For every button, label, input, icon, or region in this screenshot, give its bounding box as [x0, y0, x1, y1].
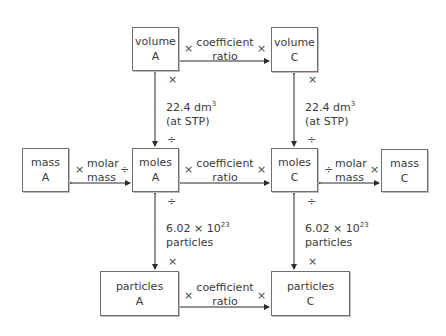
volume-c-substance: C [291, 50, 299, 65]
divide-icon: ÷ [324, 164, 333, 176]
avogadro-left-label: 6.02 × 1023 particles [166, 222, 230, 250]
volume-exponent: 3 [351, 100, 355, 108]
stp-text: (at STP) [166, 115, 216, 129]
moles-a-label: moles [139, 155, 172, 170]
molar-text: molar [87, 157, 119, 171]
multiply-icon: × [168, 256, 177, 268]
multiply-icon: × [75, 164, 84, 176]
coefficient-text: coefficient [194, 36, 256, 50]
mass-text: mass [335, 171, 367, 185]
moles-a-substance: A [152, 170, 160, 185]
divide-icon: ÷ [307, 196, 316, 208]
coefficient-ratio-top-label: coefficient ratio [194, 36, 256, 64]
molar-text: molar [335, 157, 367, 171]
gas-volume-right-label: 22.4 dm3 (at STP) [305, 101, 355, 129]
multiply-icon: × [168, 74, 177, 86]
mole-conversion-diagram: volume A volume C mass A moles A moles C… [0, 0, 446, 336]
particles-c-label: particles [287, 279, 334, 294]
avogadro-value: 6.02 × 10 [305, 222, 360, 235]
molar-mass-right-label: molar mass [335, 157, 367, 185]
multiply-icon: × [184, 164, 193, 176]
moles-c-label: moles [278, 155, 311, 170]
particles-a-label: particles [116, 279, 163, 294]
particles-c-box: particles C [271, 271, 350, 316]
volume-c-label: volume [274, 35, 315, 50]
avogadro-exponent: 23 [360, 221, 369, 229]
avogadro-value: 6.02 × 10 [166, 222, 221, 235]
multiply-icon: × [308, 74, 317, 86]
volume-a-substance: A [152, 49, 160, 64]
stp-text: (at STP) [305, 115, 355, 129]
volume-c-box: volume C [271, 27, 318, 72]
multiply-icon: × [370, 164, 379, 176]
multiply-icon: × [184, 43, 193, 55]
volume-value: 22.4 dm [305, 101, 351, 114]
volume-exponent: 3 [212, 100, 216, 108]
mass-c-label: mass [390, 156, 419, 171]
mass-c-box: mass C [381, 149, 428, 192]
mass-a-substance: A [42, 170, 50, 185]
ratio-text: ratio [194, 50, 256, 64]
particles-c-substance: C [307, 294, 315, 309]
molar-mass-left-label: molar mass [87, 157, 119, 185]
mass-a-box: mass A [22, 148, 69, 192]
divide-icon: ÷ [167, 196, 176, 208]
moles-c-substance: C [291, 170, 299, 185]
multiply-icon: × [308, 256, 317, 268]
multiply-icon: × [257, 290, 266, 302]
coefficient-ratio-mid-label: coefficient ratio [194, 157, 256, 185]
coefficient-text: coefficient [194, 281, 256, 295]
divide-icon: ÷ [307, 134, 316, 146]
particles-text: particles [305, 236, 369, 250]
volume-a-box: volume A [132, 27, 179, 71]
particles-text: particles [166, 236, 230, 250]
divide-icon: ÷ [120, 164, 129, 176]
volume-value: 22.4 dm [166, 101, 212, 114]
volume-a-label: volume [135, 34, 176, 49]
avogadro-right-label: 6.02 × 1023 particles [305, 222, 369, 250]
moles-c-box: moles C [271, 148, 318, 192]
gas-volume-left-label: 22.4 dm3 (at STP) [166, 101, 216, 129]
ratio-text: ratio [194, 295, 256, 309]
multiply-icon: × [257, 164, 266, 176]
moles-a-box: moles A [132, 148, 179, 192]
mass-c-substance: C [401, 171, 409, 186]
divide-icon: ÷ [167, 134, 176, 146]
multiply-icon: × [257, 43, 266, 55]
multiply-icon: × [184, 290, 193, 302]
ratio-text: ratio [194, 171, 256, 185]
coefficient-ratio-bottom-label: coefficient ratio [194, 281, 256, 309]
coefficient-text: coefficient [194, 157, 256, 171]
particles-a-box: particles A [100, 271, 179, 316]
mass-a-label: mass [31, 155, 60, 170]
particles-a-substance: A [136, 294, 144, 309]
avogadro-exponent: 23 [221, 221, 230, 229]
mass-text: mass [87, 171, 119, 185]
